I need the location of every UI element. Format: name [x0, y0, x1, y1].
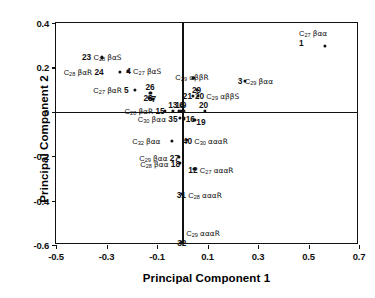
- point-label-30: C29 αββR: [175, 74, 208, 83]
- point-label-31: 31 C28 αααR: [177, 191, 222, 201]
- point-label-18: C28 βαα 18: [140, 160, 180, 170]
- point-label-4: 4 C27 βαS: [126, 67, 161, 77]
- label-stereo-35: βαα: [152, 115, 166, 124]
- y-tick-label: -0.6: [16, 240, 49, 251]
- label-stereo-37: βαα: [146, 137, 160, 146]
- label-num-26: 26: [145, 82, 154, 92]
- y-tick-label: 0.4: [16, 18, 49, 29]
- y-zero-axis-line: [182, 23, 183, 243]
- point-label-9: 9: [182, 101, 187, 110]
- label-stereo-32: αααR: [200, 229, 220, 238]
- label-num-29: 29: [192, 85, 201, 95]
- label-stereo-1: βαα: [313, 29, 327, 38]
- label-carbon-12: 27: [205, 169, 211, 175]
- label-stereo-18: βαα: [154, 160, 168, 169]
- label-stereo-5: βαR: [107, 86, 122, 95]
- data-point: [134, 88, 137, 91]
- label-carbon-1: 27: [304, 32, 310, 38]
- x-tick-label: -0.1: [149, 251, 165, 262]
- point-label-19: 19: [196, 118, 205, 127]
- label-num-24: 24: [94, 67, 103, 77]
- label-num-21: 21: [183, 91, 192, 101]
- x-zero-axis-line: [56, 112, 357, 113]
- label-num-1: 1: [299, 38, 304, 48]
- x-tick-label: -0.3: [99, 251, 115, 262]
- point-label-40: 40 C30 αααR: [183, 137, 228, 147]
- data-point: [178, 116, 181, 119]
- label-num-32: 32: [177, 238, 186, 248]
- label-carbon-24: 28: [69, 71, 75, 77]
- label-stereo-40: αααR: [208, 137, 228, 146]
- y-tick-mark: [52, 112, 56, 113]
- y-tick-mark: [52, 201, 56, 202]
- x-tick-mark: [258, 245, 259, 249]
- label-carbon-4: 27: [139, 70, 145, 76]
- label-carbon-40: 30: [200, 140, 206, 146]
- label-carbon-18: 28: [146, 163, 152, 169]
- point-label-20b: 20 C29 αββS: [195, 92, 239, 102]
- point-label-21: 21: [183, 92, 192, 101]
- label-stereo-23: βαS: [107, 53, 121, 62]
- x-tick-label: 0.3: [252, 251, 265, 262]
- point-label-37: C32 βαα: [132, 138, 160, 147]
- point-label-35: C30 βαα 35: [138, 115, 178, 125]
- label-num-20: 20: [199, 100, 208, 110]
- point-label-20: 20: [199, 101, 208, 110]
- y-tick-label: -0.2: [16, 151, 49, 162]
- data-point: [171, 139, 174, 142]
- point-label-1: C27 βαα 1: [299, 30, 327, 48]
- label-num-4: 4: [126, 66, 131, 76]
- label-num-19: 19: [196, 117, 205, 127]
- x-tick-mark: [208, 245, 209, 249]
- label-carbon-15: 28: [130, 110, 136, 116]
- y-tick-mark: [52, 245, 56, 246]
- label-num-12: 12: [188, 165, 197, 175]
- x-tick-label: -0.5: [48, 251, 64, 262]
- label-num-35: 35: [168, 114, 177, 124]
- label-carbon-5: 27: [99, 89, 105, 95]
- point-label-24: C28 βαR 24: [64, 68, 104, 78]
- x-tick-mark: [157, 245, 158, 249]
- label-num-18: 18: [171, 159, 180, 169]
- point-label-16: 16: [186, 115, 195, 124]
- x-tick-mark: [56, 245, 57, 249]
- point-label-12: 12 C27 αααR: [188, 166, 233, 176]
- y-tick-label: 0: [16, 106, 49, 117]
- label-carbon-23: 28: [99, 56, 105, 62]
- label-carbon-3: 29: [250, 80, 256, 86]
- x-tick-mark: [309, 245, 310, 249]
- label-stereo-3: βαα: [259, 77, 273, 86]
- y-tick-mark: [52, 67, 56, 68]
- y-tick-label: 0.2: [16, 62, 49, 73]
- point-label-26: 26: [145, 83, 154, 92]
- x-tick-label: 0.5: [302, 251, 315, 262]
- plot-area: -0.5-0.3-0.10.10.30.50.70.40.20-0.2-0.4-…: [55, 22, 358, 244]
- point-label-5: C27 βαR 5: [93, 86, 128, 96]
- label-num-3: 3: [238, 76, 243, 86]
- point-label-29: 29: [192, 86, 201, 95]
- label-stereo-30: αββR: [189, 73, 208, 82]
- x-tick-mark: [359, 245, 360, 249]
- label-num-16: 16: [186, 114, 195, 124]
- point-label-23: 23 C28 βαS: [82, 53, 122, 63]
- point-label-3: 3 C29 βαα: [238, 77, 273, 87]
- label-stereo-31: αααR: [202, 191, 222, 200]
- label-num-31: 31: [177, 190, 186, 200]
- label-carbon-37: 32: [138, 140, 144, 146]
- pca-biplot-figure: Principal Component 2 Principal Componen…: [0, 0, 375, 298]
- label-carbon-35: 30: [143, 118, 149, 124]
- label-num-5: 5: [124, 85, 129, 95]
- label-stereo-4: βαS: [147, 67, 161, 76]
- label-carbon-31: 28: [194, 194, 200, 200]
- label-stereo-20b: αββS: [220, 92, 239, 101]
- point-label-32: C29 αααR: [186, 230, 220, 239]
- x-tick-label: 0.1: [201, 251, 214, 262]
- point-label-32-number: 32: [177, 239, 186, 248]
- label-carbon-30: 29: [181, 76, 187, 82]
- point-label-7: 7: [151, 95, 156, 104]
- x-axis-title: Principal Component 1: [55, 272, 358, 284]
- label-stereo-12: αααR: [214, 166, 234, 175]
- label-stereo-24: βαR: [77, 68, 92, 77]
- label-num-23: 23: [82, 52, 91, 62]
- label-num-40: 40: [183, 136, 192, 146]
